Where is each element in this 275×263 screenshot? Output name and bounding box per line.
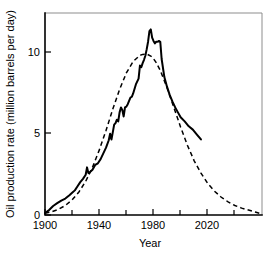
x-tick-label-1940: 1940	[87, 219, 111, 231]
x-axis-ticks	[45, 209, 234, 215]
oil-production-chart: 0 5 10 1900 1940 1980 2020 Year Oil prod…	[0, 0, 275, 263]
y-axis-ticks	[45, 52, 51, 215]
chart-page: 0 5 10 1900 1940 1980 2020 Year Oil prod…	[0, 0, 275, 263]
y-axis-title: Oil production rate (million barrels per…	[4, 10, 16, 218]
x-tick-label-2020: 2020	[195, 219, 219, 231]
series-hubbert-curve-fit	[45, 54, 262, 214]
x-tick-label-1900: 1900	[33, 219, 57, 231]
y-tick-label-5: 5	[34, 127, 40, 139]
series-actual-oil-production	[45, 29, 201, 213]
y-tick-label-10: 10	[28, 46, 40, 58]
x-tick-label-1980: 1980	[141, 219, 165, 231]
x-axis-title: Year	[139, 237, 162, 249]
